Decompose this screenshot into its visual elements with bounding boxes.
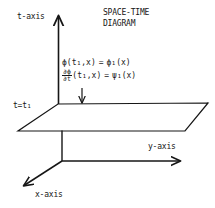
diagram-title-line-1: SPACE-TIME	[103, 8, 149, 17]
equation-1-lhs: ϕ(t₁,x)	[62, 57, 96, 68]
space-time-diagram-figure: SPACE-TIME DIAGRAM t-axis y-axis x-axis …	[0, 0, 215, 208]
x-axis-line	[24, 161, 62, 186]
y-axis-label: y-axis	[148, 142, 176, 151]
equation-field-value: ϕ(t₁,x) = ϕ₁(x)	[62, 56, 136, 69]
diagram-canvas	[0, 0, 215, 208]
t-axis-label: t-axis	[17, 12, 45, 21]
equation-1-rhs: ϕ₁(x)	[107, 57, 131, 68]
partial-derivative-fraction: ∂ϕ ∂t	[62, 69, 72, 83]
fraction-denominator: ∂t	[62, 75, 72, 83]
slice-plane	[18, 103, 208, 131]
equation-2-equals: =	[104, 70, 109, 81]
equation-1-equals: =	[99, 57, 104, 68]
x-axis-label: x-axis	[35, 190, 63, 199]
initial-conditions-block: ϕ(t₁,x) = ϕ₁(x) ∂ϕ ∂t (t₁,x) = ψ₁(x)	[62, 56, 136, 82]
equation-field-derivative: ∂ϕ ∂t (t₁,x) = ψ₁(x)	[62, 69, 136, 82]
slice-label: t=t₁	[13, 101, 31, 110]
equation-2-rhs: ψ₁(x)	[112, 70, 136, 81]
equation-2-lhs: (t₁,x)	[72, 70, 101, 81]
diagram-title-line-2: DIAGRAM	[103, 19, 135, 28]
